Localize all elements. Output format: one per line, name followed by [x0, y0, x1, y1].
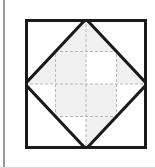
shaded-cell-c2-r2 [56, 52, 87, 85]
left-divider-rule [3, 0, 5, 168]
shaded-cell-c2-r3 [56, 84, 87, 117]
quilt-block[interactable] [25, 19, 147, 149]
shaded-cell-c3-r3 [86, 84, 117, 117]
quilt-block-svg [25, 19, 147, 149]
figure-root [0, 0, 155, 168]
bottom-divider-rule [0, 167, 155, 168]
figure-canvas [8, 2, 155, 166]
